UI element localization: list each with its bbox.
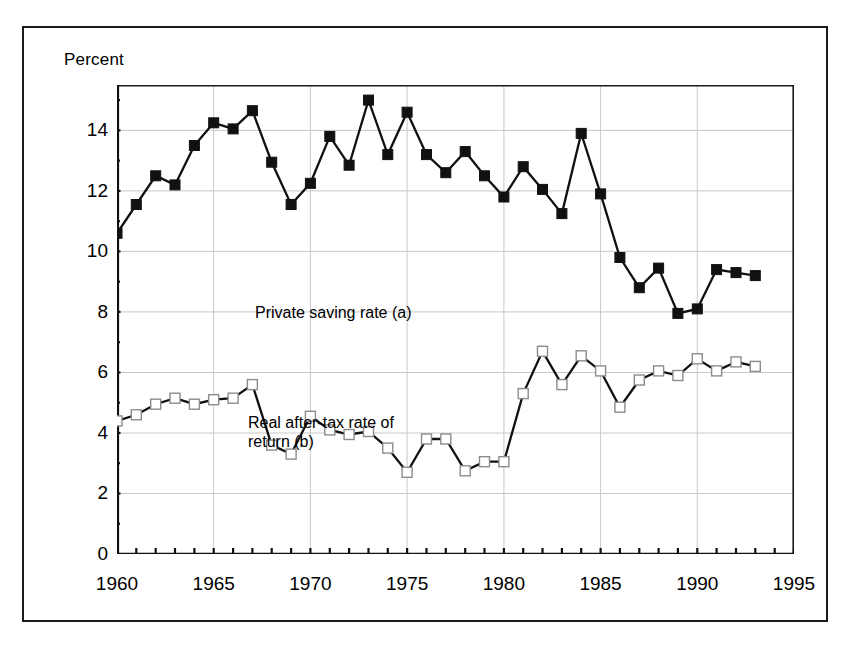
chart-canvas	[117, 85, 794, 554]
y-tick-label-2: 2	[97, 482, 108, 504]
annotation-real-after-tax-rate: Real after-tax rate ofreturn (b)	[248, 413, 394, 451]
plot-area: Private saving rate (a) Real after-tax r…	[117, 85, 794, 554]
y-tick-label-8: 8	[97, 301, 108, 323]
y-tick-label-0: 0	[97, 543, 108, 565]
x-tick-label-1990: 1990	[676, 573, 718, 595]
annotation-real-line-2: return (b)	[248, 433, 314, 450]
y-tick-label-6: 6	[97, 361, 108, 383]
x-tick-label-1965: 1965	[193, 573, 235, 595]
figure-root: Percent 02468101214 Private saving rate …	[0, 0, 864, 656]
annotation-private-saving-rate: Private saving rate (a)	[255, 303, 412, 322]
y-tick-label-4: 4	[97, 422, 108, 444]
x-tick-label-1985: 1985	[579, 573, 621, 595]
x-tick-label-1960: 1960	[96, 573, 138, 595]
y-tick-label-12: 12	[87, 180, 108, 202]
x-tick-label-1995: 1995	[773, 573, 815, 595]
y-tick-label-14: 14	[87, 119, 108, 141]
y-axis-tick-labels: 02468101214	[62, 0, 108, 656]
x-tick-label-1970: 1970	[289, 573, 331, 595]
annotation-real-line-1: Real after-tax rate of	[248, 414, 394, 431]
axis-frame	[117, 85, 794, 554]
x-axis-tick-labels: 19601965197019751980198519901995	[0, 573, 864, 607]
x-tick-label-1980: 1980	[483, 573, 525, 595]
x-tick-label-1975: 1975	[386, 573, 428, 595]
y-tick-label-10: 10	[87, 240, 108, 262]
